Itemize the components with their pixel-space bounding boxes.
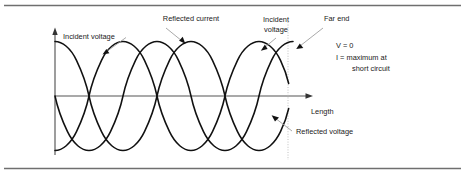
label-incident-voltage-right-line1: Incident — [263, 15, 289, 24]
annotation-line-3: short circuit — [352, 64, 390, 73]
label-reflected-voltage: Reflected voltage — [296, 127, 353, 136]
x-axis-arrowhead — [306, 93, 314, 98]
y-axis-arrowhead — [52, 28, 57, 36]
annotation-line-1: V = 0 — [336, 41, 353, 50]
annotation-line-2: I = maximum at — [336, 53, 387, 62]
leader-far-end — [300, 28, 323, 46]
label-reflected-current: Reflected current — [163, 14, 219, 23]
label-far-end: Far end — [324, 14, 349, 23]
label-length-axis: Length — [311, 107, 334, 116]
standing-wave-diagram: Incident voltage Reflected current Incid… — [0, 0, 465, 175]
label-incident-voltage-right-line2: voltage — [264, 25, 288, 34]
leader-arrowhead-reflected-current — [179, 37, 185, 44]
label-incident-voltage-left: Incident voltage — [63, 32, 115, 41]
leader-reflected-current — [166, 28, 182, 41]
leader-reflected-voltage — [275, 118, 292, 131]
